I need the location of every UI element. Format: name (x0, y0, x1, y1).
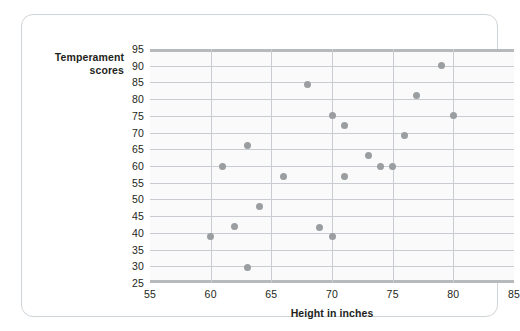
data-point (341, 173, 348, 180)
y-tick-label-95: 95 (132, 43, 144, 55)
data-point (341, 122, 348, 129)
y-tick-label-25: 25 (132, 277, 144, 289)
y-axis-title: Temperament scores (34, 51, 124, 77)
y-tick-label-55: 55 (132, 177, 144, 189)
y-tick-label-60: 60 (132, 160, 144, 172)
y-tick-label-45: 45 (132, 210, 144, 222)
y-tick-label-65: 65 (132, 143, 144, 155)
figure-card: Temperament scores 253035404550556065707… (21, 14, 498, 317)
x-axis-title: Height in inches (150, 307, 514, 319)
scatter-plot-area: 253035404550556065707580859095 556065707… (150, 49, 514, 283)
data-point (389, 163, 396, 170)
data-point (438, 62, 445, 69)
y-axis-title-line1: Temperament (55, 51, 124, 63)
data-point (219, 163, 226, 170)
y-tick-label-85: 85 (132, 76, 144, 88)
x-tick-label-65: 65 (265, 288, 277, 300)
data-point (304, 81, 311, 88)
data-point (329, 233, 336, 240)
data-point (329, 112, 336, 119)
x-tick-label-85: 85 (508, 288, 520, 300)
data-point (207, 233, 214, 240)
gridline-vertical (332, 49, 333, 283)
y-tick-label-50: 50 (132, 193, 144, 205)
data-point (280, 173, 287, 180)
data-point (377, 163, 384, 170)
y-tick-label-40: 40 (132, 227, 144, 239)
gridline-vertical (211, 49, 212, 283)
x-tick-label-70: 70 (326, 288, 338, 300)
x-tick-label-55: 55 (144, 288, 156, 300)
y-tick-label-90: 90 (132, 60, 144, 72)
y-tick-label-70: 70 (132, 127, 144, 139)
y-axis-title-line2: scores (34, 64, 124, 77)
data-point (256, 203, 263, 210)
y-tick-label-75: 75 (132, 110, 144, 122)
x-tick-label-60: 60 (205, 288, 217, 300)
x-tick-label-75: 75 (387, 288, 399, 300)
gridline-vertical (453, 49, 454, 283)
y-tick-label-35: 35 (132, 244, 144, 256)
gridline-vertical (271, 49, 272, 283)
x-tick-label-80: 80 (447, 288, 459, 300)
y-tick-label-30: 30 (132, 260, 144, 272)
y-tick-label-80: 80 (132, 93, 144, 105)
